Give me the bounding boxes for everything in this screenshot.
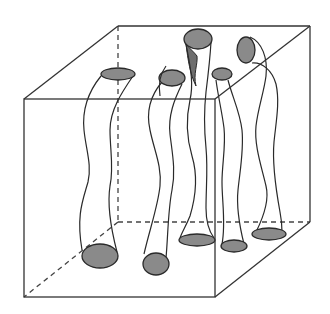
tube-2-top-cap — [159, 70, 185, 86]
tube-4-bottom-cap — [221, 240, 247, 252]
tube-5 — [237, 37, 286, 240]
tube-5-bottom-cap — [252, 228, 286, 240]
tube-1-top-cap — [101, 68, 135, 80]
tube-2-bottom-cap — [143, 253, 169, 275]
tube-4-top-cap — [212, 68, 232, 80]
tube-1 — [80, 68, 135, 268]
tube-2 — [143, 70, 185, 275]
right-top-diagonal-edge — [215, 26, 310, 99]
tube-1-bottom-cap — [82, 244, 118, 268]
tube-5-top-cap — [237, 37, 255, 63]
tube-4 — [212, 68, 247, 252]
left-top-diagonal-edge — [24, 26, 118, 99]
tube-3 — [179, 29, 215, 246]
tube-3-top-cap — [184, 29, 212, 49]
cube-visible-edges — [24, 26, 310, 297]
tube-3-bottom-cap — [179, 234, 215, 246]
diagram-canvas — [0, 0, 330, 314]
tubes — [80, 29, 286, 275]
front-face — [24, 99, 215, 297]
cube-diagram — [0, 0, 330, 314]
